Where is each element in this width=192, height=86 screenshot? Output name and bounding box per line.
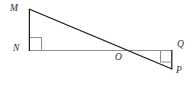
figure-canvas [0, 0, 192, 86]
right-angle-mark-q [161, 51, 172, 62]
vertex-label-n: N [13, 44, 19, 54]
right-angle-mark-n [30, 38, 42, 51]
vertex-label-o: O [115, 53, 122, 63]
vertex-label-q: Q [177, 40, 184, 50]
geometry-figure: M N O P Q [0, 0, 192, 86]
segment-mp [29, 9, 172, 69]
vertex-label-p: P [176, 66, 182, 76]
vertex-label-m: M [10, 4, 18, 14]
